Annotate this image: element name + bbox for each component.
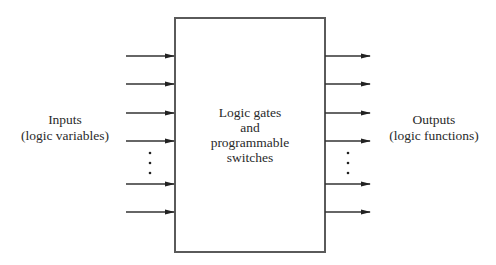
output-ellipsis [347, 152, 350, 175]
output-dot-3 [347, 172, 350, 175]
inputs-label-line-2: (logic variables) [21, 128, 109, 143]
input-dot-2 [149, 162, 152, 165]
outputs-label-line-2: (logic functions) [389, 128, 479, 143]
input-arrows [126, 56, 174, 212]
block-label-line-2: and [240, 120, 260, 135]
programmable-logic-device-diagram: Logic gates and programmable switches [0, 0, 496, 265]
output-arrows [325, 56, 370, 212]
input-dot-3 [149, 172, 152, 175]
block-label-line-1: Logic gates [219, 105, 282, 120]
output-dot-2 [347, 162, 350, 165]
inputs-label-line-1: Inputs [48, 112, 82, 127]
input-ellipsis [149, 152, 152, 175]
block-label-line-4: switches [227, 150, 274, 165]
output-dot-1 [347, 152, 350, 155]
input-dot-1 [149, 152, 152, 155]
diagram-svg: Logic gates and programmable switches [0, 0, 496, 265]
block-label-line-3: programmable [211, 135, 290, 150]
outputs-label-line-1: Outputs [413, 112, 456, 127]
